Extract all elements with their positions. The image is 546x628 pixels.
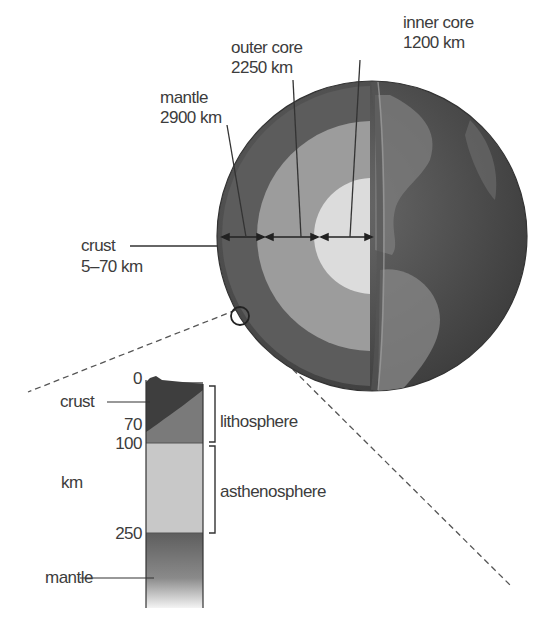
depth-tick-0: 0	[110, 369, 142, 389]
depth-tick-70: 70	[100, 415, 142, 435]
depth-tick-250: 250	[90, 524, 142, 544]
depth-column	[80, 376, 203, 608]
lithosphere-label: lithosphere	[220, 412, 298, 432]
mantle-label: mantle	[160, 88, 208, 108]
outer-core-label: outer core	[231, 38, 303, 58]
brackets	[209, 386, 215, 533]
inner-core-label: inner core	[403, 13, 474, 33]
outer-core-value: 2250 km	[231, 58, 293, 78]
mantle-value: 2900 km	[160, 108, 222, 128]
earth-structure-diagram	[0, 0, 546, 628]
column-mantle-label: mantle	[45, 568, 93, 588]
column-crust-label: crust	[60, 392, 94, 412]
depth-tick-100: 100	[90, 434, 142, 454]
crust-label: crust	[81, 236, 115, 256]
asthenosphere-label: asthenosphere	[220, 482, 326, 502]
crust-value: 5–70 km	[81, 257, 143, 277]
inner-core-value: 1200 km	[403, 33, 465, 53]
depth-unit: km	[61, 473, 83, 493]
